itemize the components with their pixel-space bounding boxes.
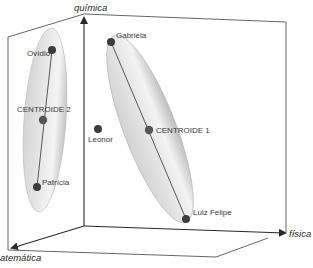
point-patricia: [33, 183, 41, 191]
label-luiz-felipe: Luiz Felipe: [193, 208, 232, 217]
point-luiz-felipe: [182, 215, 190, 223]
point-centroide-2: [39, 116, 47, 124]
point-centroide-1: [145, 126, 153, 134]
fisica-axis-label: física: [289, 228, 311, 239]
label-leonor: Leonor: [88, 135, 113, 144]
fisica-axis: [84, 226, 285, 233]
label-centroide-2: CENTROIDE 2: [17, 105, 71, 114]
point-gabriela: [107, 38, 115, 46]
quimica-axis-label: química: [74, 2, 107, 13]
point-leonor: [94, 125, 102, 133]
diagram-canvas: química física atemática Ovídio CENTROID…: [0, 0, 313, 268]
matematica-axis-label: atemática: [0, 252, 41, 263]
back-face-top-edge: [84, 14, 286, 22]
cluster-diagram: química física atemática Ovídio CENTROID…: [0, 0, 313, 268]
label-centroide-1: CENTROIDE 1: [156, 126, 210, 135]
label-gabriela: Gabriela: [116, 31, 147, 40]
matematica-axis: [12, 226, 84, 248]
label-patricia: Patrícia: [42, 178, 70, 187]
floor-front-edge: [8, 238, 268, 257]
label-ovidio: Ovídio: [27, 49, 51, 58]
